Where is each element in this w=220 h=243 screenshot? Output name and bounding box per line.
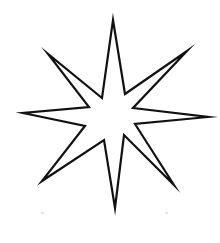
eight-pointed-star-icon [23,20,208,208]
scan-artifact [41,212,44,214]
figure-canvas [0,0,220,243]
star-diagram [0,0,220,243]
scan-artifact [165,212,168,214]
